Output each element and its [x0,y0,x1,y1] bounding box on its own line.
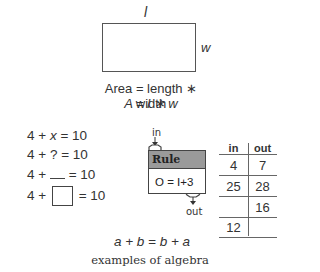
header-in: in [219,142,248,154]
cell-in: 25 [219,179,248,194]
equation-suffix: = 10 [57,128,87,143]
function-machine: Rule O = I+3 [148,150,206,194]
empty-box [52,186,73,206]
equation-unknown: x [50,128,57,143]
equation-box: 4 + = 10 [27,186,105,206]
rule-expression: O = I+3 [149,171,205,193]
machine-output-label: out [186,206,202,217]
equation-suffix: = 10 [75,188,105,203]
cell-out: 7 [248,158,277,173]
table-row: 16 [219,197,277,218]
table-row: 25 28 [219,176,277,197]
equation-blank: 4 + = 10 [27,166,95,182]
equation-suffix: = 10 [57,147,87,162]
header-out: out [248,142,277,154]
rule-title: Rule [149,151,205,169]
cell-out: 28 [248,179,277,194]
blank-line [50,166,65,179]
equation-suffix: = 10 [65,167,95,182]
equation-question: 4 + ? = 10 [27,147,88,162]
cell-in: 4 [219,158,248,173]
equation-variable: 4 + x = 10 [27,128,87,143]
equation-prefix: 4 + [27,188,50,203]
cell-in: 12 [219,220,248,235]
caption: examples of algebra [80,253,220,267]
area-rectangle [102,23,196,72]
table-header: in out [219,143,277,155]
table-row: 12 [219,217,277,238]
equation-prefix: 4 + [27,147,50,162]
width-label: w [201,40,210,55]
commutative-property: a + b = b + a [100,234,204,249]
equation-prefix: 4 + [27,167,50,182]
cell-out: 16 [248,200,277,215]
length-label: l [144,4,147,20]
equation-prefix: 4 + [27,128,50,143]
table-row: 4 7 [219,155,277,176]
area-formula-symbols: A = l ∗ w [91,96,211,111]
